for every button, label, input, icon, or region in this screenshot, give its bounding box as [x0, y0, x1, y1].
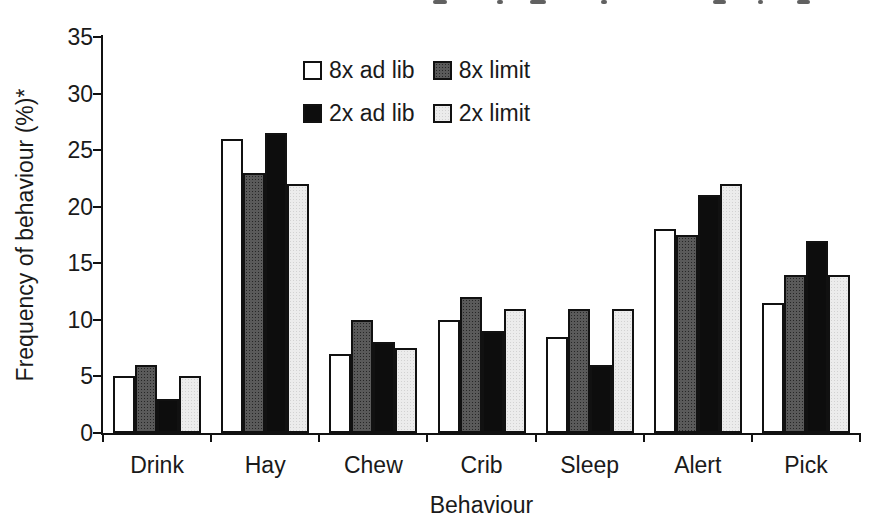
bar-2x-ad-lib-pick: [806, 241, 828, 433]
bar-8x-limit-crib: [460, 297, 482, 433]
category-label-alert: Alert: [644, 452, 752, 479]
legend-swatch-8x-ad-lib: [303, 61, 322, 80]
bar-2x-limit-hay: [287, 184, 309, 433]
y-tick: [93, 262, 102, 264]
scan-artifact: [601, 0, 607, 4]
y-tick: [93, 93, 102, 95]
scan-artifact: [433, 0, 447, 4]
x-tick: [643, 433, 645, 442]
bar-2x-ad-lib-chew: [373, 342, 395, 433]
category-label-chew: Chew: [319, 452, 427, 479]
bar-8x-ad-lib-sleep: [546, 337, 568, 433]
bar-2x-ad-lib-sleep: [590, 365, 612, 433]
legend-item-8x-ad-lib: 8x ad lib: [303, 57, 415, 84]
legend-label: 8x limit: [459, 57, 531, 84]
y-tick: [93, 319, 102, 321]
legend-item-8x-limit: 8x limit: [433, 57, 531, 84]
x-axis-line: [101, 433, 861, 435]
category-label-pick: Pick: [752, 452, 860, 479]
scan-artifact: [797, 0, 810, 4]
legend-swatch-8x-limit: [433, 61, 452, 80]
bar-8x-ad-lib-crib: [438, 320, 460, 433]
scan-artifact: [497, 0, 503, 4]
y-tick-label: 20: [41, 194, 93, 220]
bar-8x-ad-lib-alert: [654, 229, 676, 433]
legend: 8x ad lib8x limit2x ad lib2x limit: [303, 57, 530, 127]
x-axis-title: Behaviour: [103, 492, 860, 519]
x-tick: [426, 433, 428, 442]
bar-2x-limit-chew: [395, 348, 417, 433]
x-tick: [318, 433, 320, 442]
bar-2x-limit-pick: [828, 275, 850, 433]
x-tick: [210, 433, 212, 442]
x-tick: [751, 433, 753, 442]
legend-swatch-2x-ad-lib: [303, 104, 322, 123]
x-tick: [859, 433, 861, 442]
y-tick: [93, 206, 102, 208]
y-tick-label: 5: [41, 363, 93, 389]
bar-8x-ad-lib-pick: [762, 303, 784, 433]
y-tick: [93, 375, 102, 377]
legend-item-2x-ad-lib: 2x ad lib: [303, 100, 415, 127]
y-axis-title: Frequency of behaviour (%)*: [12, 65, 40, 405]
bar-8x-ad-lib-chew: [329, 354, 351, 433]
bar-2x-ad-lib-alert: [698, 195, 720, 433]
scan-artifact: [758, 0, 763, 4]
y-tick: [93, 432, 102, 434]
x-tick: [535, 433, 537, 442]
category-label-hay: Hay: [211, 452, 319, 479]
bar-8x-ad-lib-drink: [113, 376, 135, 433]
scan-artifact: [530, 0, 546, 4]
y-tick-label: 15: [41, 250, 93, 276]
bar-2x-ad-lib-crib: [482, 331, 504, 433]
bar-chart-figure: Frequency of behaviour (%)* Behaviour 05…: [0, 0, 880, 531]
bar-8x-limit-pick: [784, 275, 806, 433]
legend-label: 2x limit: [459, 100, 531, 127]
bar-8x-ad-lib-hay: [221, 139, 243, 433]
bar-2x-limit-crib: [504, 309, 526, 433]
bar-2x-ad-lib-drink: [157, 399, 179, 433]
category-label-crib: Crib: [427, 452, 535, 479]
bar-8x-limit-chew: [351, 320, 373, 433]
y-tick-label: 35: [41, 24, 93, 50]
y-tick: [93, 36, 102, 38]
bar-8x-limit-hay: [243, 173, 265, 433]
bar-2x-limit-drink: [179, 376, 201, 433]
bar-2x-limit-sleep: [612, 309, 634, 433]
y-tick-label: 0: [41, 420, 93, 446]
legend-swatch-2x-limit: [433, 104, 452, 123]
legend-label: 2x ad lib: [329, 100, 415, 127]
y-tick: [93, 149, 102, 151]
category-label-drink: Drink: [103, 452, 211, 479]
category-label-sleep: Sleep: [536, 452, 644, 479]
y-tick-label: 10: [41, 307, 93, 333]
x-tick: [102, 433, 104, 442]
legend-label: 8x ad lib: [329, 57, 415, 84]
bar-2x-limit-alert: [720, 184, 742, 433]
bar-8x-limit-alert: [676, 235, 698, 433]
bar-8x-limit-drink: [135, 365, 157, 433]
y-tick-label: 25: [41, 137, 93, 163]
y-tick-label: 30: [41, 81, 93, 107]
bar-8x-limit-sleep: [568, 309, 590, 433]
scan-artifact: [713, 0, 726, 4]
bar-2x-ad-lib-hay: [265, 133, 287, 433]
legend-item-2x-limit: 2x limit: [433, 100, 531, 127]
